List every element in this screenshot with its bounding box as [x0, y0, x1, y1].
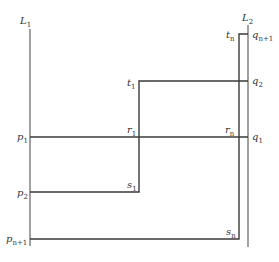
label-L2: L2 — [241, 12, 253, 26]
label-q1: q1 — [252, 131, 263, 145]
label-pn1: pn+1 — [6, 233, 27, 247]
label-L1: L1 — [19, 15, 31, 29]
label-q2: q2 — [252, 75, 263, 89]
label-s1: s1 — [127, 179, 137, 193]
label-p1: p1 — [17, 131, 28, 145]
label-rn: rn — [225, 124, 235, 138]
label-tn: tn — [226, 29, 235, 43]
label-sn: sn — [226, 226, 236, 240]
path-diagram: L1 L2 p1 p2 pn+1 q1 q2 qn+1 t1 tn r1 rn … — [0, 0, 279, 262]
label-t1: t1 — [127, 77, 136, 91]
label-r1: r1 — [127, 124, 136, 138]
label-p2: p2 — [17, 187, 28, 201]
label-qn1: qn+1 — [252, 29, 273, 43]
